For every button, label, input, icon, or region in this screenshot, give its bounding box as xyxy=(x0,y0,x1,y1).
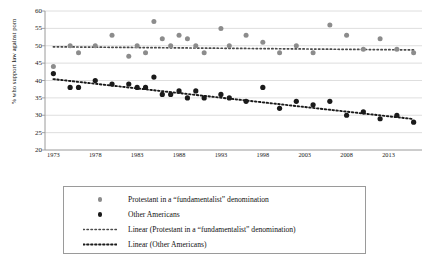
legend-item-linear-other: Linear (Other Americans) xyxy=(64,237,365,252)
x-tick-label: 1973 xyxy=(38,152,68,158)
data-point-other-americans xyxy=(76,85,81,90)
data-point-other-americans xyxy=(176,88,181,93)
x-tick-label: 2008 xyxy=(332,152,362,158)
chart-legend: Protestant in a “fundamentalist” denomin… xyxy=(63,186,366,254)
legend-item-label: Other Americans xyxy=(128,211,180,219)
data-point-other-americans xyxy=(378,116,383,121)
data-point-other-americans xyxy=(260,85,265,90)
data-point-protestant xyxy=(218,26,223,31)
data-point-other-americans xyxy=(227,95,232,100)
data-point-protestant xyxy=(260,40,265,45)
data-point-protestant xyxy=(126,54,131,59)
data-point-other-americans xyxy=(411,120,416,125)
x-tick-label: 2003 xyxy=(290,152,320,158)
data-point-other-americans xyxy=(394,113,399,118)
data-point-protestant xyxy=(93,43,98,48)
data-point-other-americans xyxy=(126,81,131,86)
data-point-protestant xyxy=(394,47,399,52)
data-point-protestant xyxy=(327,22,332,27)
x-tick-label: 1998 xyxy=(248,152,278,158)
data-point-protestant xyxy=(151,19,156,24)
data-point-protestant xyxy=(143,50,148,55)
legend-item-label: Linear (Other Americans) xyxy=(128,241,206,249)
data-point-protestant xyxy=(344,33,349,38)
data-point-protestant xyxy=(361,47,366,52)
legend-item-other-americans: Other Americans xyxy=(64,207,365,222)
data-point-other-americans xyxy=(294,99,299,104)
legend-item-label: Linear (Protestant in a “fundamentalist”… xyxy=(128,226,296,234)
data-point-protestant xyxy=(110,33,115,38)
trendline-other-americans xyxy=(53,79,413,119)
data-point-protestant xyxy=(244,33,249,38)
data-point-other-americans xyxy=(344,113,349,118)
trendline-protestant xyxy=(53,47,413,50)
data-point-other-americans xyxy=(310,102,315,107)
x-tick-label: 1993 xyxy=(206,152,236,158)
data-point-protestant xyxy=(135,43,140,48)
data-point-protestant xyxy=(76,50,81,55)
data-point-other-americans xyxy=(218,92,223,97)
data-point-protestant xyxy=(160,36,165,41)
data-point-protestant xyxy=(177,33,182,38)
data-point-other-americans xyxy=(243,99,248,104)
gray-dot-marker-icon xyxy=(72,194,128,206)
data-point-other-americans xyxy=(193,88,198,93)
legend-item-protestant: Protestant in a “fundamentalist” denomin… xyxy=(64,192,365,207)
data-point-protestant xyxy=(168,43,173,48)
data-point-other-americans xyxy=(109,81,114,86)
x-tick-label: 1978 xyxy=(80,152,110,158)
x-tick-label: 2013 xyxy=(373,152,403,158)
legend-item-linear-protestant: Linear (Protestant in a “fundamentalist”… xyxy=(64,222,365,237)
data-point-protestant xyxy=(51,64,56,69)
x-tick-label: 1983 xyxy=(122,152,152,158)
x-axis-ticks: 197319781983198819931998200320082013 xyxy=(0,152,427,164)
data-point-protestant xyxy=(311,50,316,55)
black-dot-marker-icon xyxy=(72,209,128,221)
scatter-plot-svg xyxy=(0,0,427,168)
data-point-other-americans xyxy=(135,85,140,90)
data-point-other-americans xyxy=(202,95,207,100)
data-point-other-americans xyxy=(93,78,98,83)
data-point-protestant xyxy=(68,43,73,48)
data-point-other-americans xyxy=(185,95,190,100)
data-point-other-americans xyxy=(51,71,56,76)
data-point-other-americans xyxy=(327,99,332,104)
data-point-other-americans xyxy=(361,109,366,114)
legend-item-label: Protestant in a “fundamentalist” denomin… xyxy=(128,196,269,204)
data-point-protestant xyxy=(202,50,207,55)
data-point-protestant xyxy=(411,50,416,55)
data-point-protestant xyxy=(227,43,232,48)
data-point-protestant xyxy=(277,50,282,55)
chart-figure: % who support law against porn 605550454… xyxy=(0,0,427,264)
data-point-protestant xyxy=(185,36,190,41)
plot-area: % who support law against porn 605550454… xyxy=(0,0,427,168)
data-point-protestant xyxy=(193,43,198,48)
data-point-other-americans xyxy=(277,106,282,111)
data-point-other-americans xyxy=(68,85,73,90)
black-dotted-line-icon xyxy=(72,239,128,251)
gray-dotted-line-icon xyxy=(72,224,128,236)
data-point-protestant xyxy=(378,36,383,41)
data-point-protestant xyxy=(294,43,299,48)
data-point-other-americans xyxy=(143,85,148,90)
data-point-other-americans xyxy=(168,92,173,97)
x-tick-label: 1988 xyxy=(164,152,194,158)
data-point-other-americans xyxy=(160,92,165,97)
data-point-other-americans xyxy=(151,74,156,79)
